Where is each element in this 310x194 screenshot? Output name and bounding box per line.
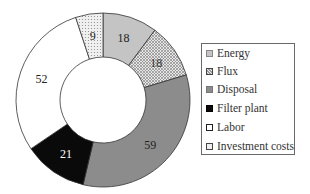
legend-item-filter-plant: Filter plant xyxy=(206,100,268,116)
legend-item-disposal: Disposal xyxy=(206,81,257,97)
legend-label: Labor xyxy=(217,121,244,133)
legend-label: Energy xyxy=(217,47,250,59)
legend-label: Filter plant xyxy=(217,102,268,114)
filter-plant-swatch-icon xyxy=(206,105,213,112)
legend-label: Investment costs xyxy=(217,140,294,152)
donut-chart: 18185921529 xyxy=(0,0,200,194)
flux-swatch-icon xyxy=(206,68,213,75)
legend-label: Flux xyxy=(217,65,238,77)
legend-item-energy: Energy xyxy=(206,45,250,61)
slice-value-label: 59 xyxy=(144,138,156,152)
labor-swatch-icon xyxy=(206,124,213,131)
disposal-swatch-icon xyxy=(206,86,213,93)
legend: Energy Flux Disposal Filter plant Labor … xyxy=(201,43,295,155)
slice-value-label: 21 xyxy=(60,147,72,161)
slice-disposal xyxy=(83,75,190,187)
donut-slices xyxy=(16,13,190,187)
slice-value-label: 18 xyxy=(117,31,129,45)
legend-item-flux: Flux xyxy=(206,63,238,79)
slice-value-label: 9 xyxy=(90,29,96,43)
energy-swatch-icon xyxy=(206,50,213,57)
legend-label: Disposal xyxy=(217,83,257,95)
investment-costs-swatch-icon xyxy=(206,143,213,150)
slice-labor xyxy=(16,17,89,148)
slice-value-label: 18 xyxy=(150,56,162,70)
legend-item-investment-costs: Investment costs xyxy=(206,138,294,154)
legend-item-labor: Labor xyxy=(206,119,244,135)
slice-value-label: 52 xyxy=(35,72,47,86)
